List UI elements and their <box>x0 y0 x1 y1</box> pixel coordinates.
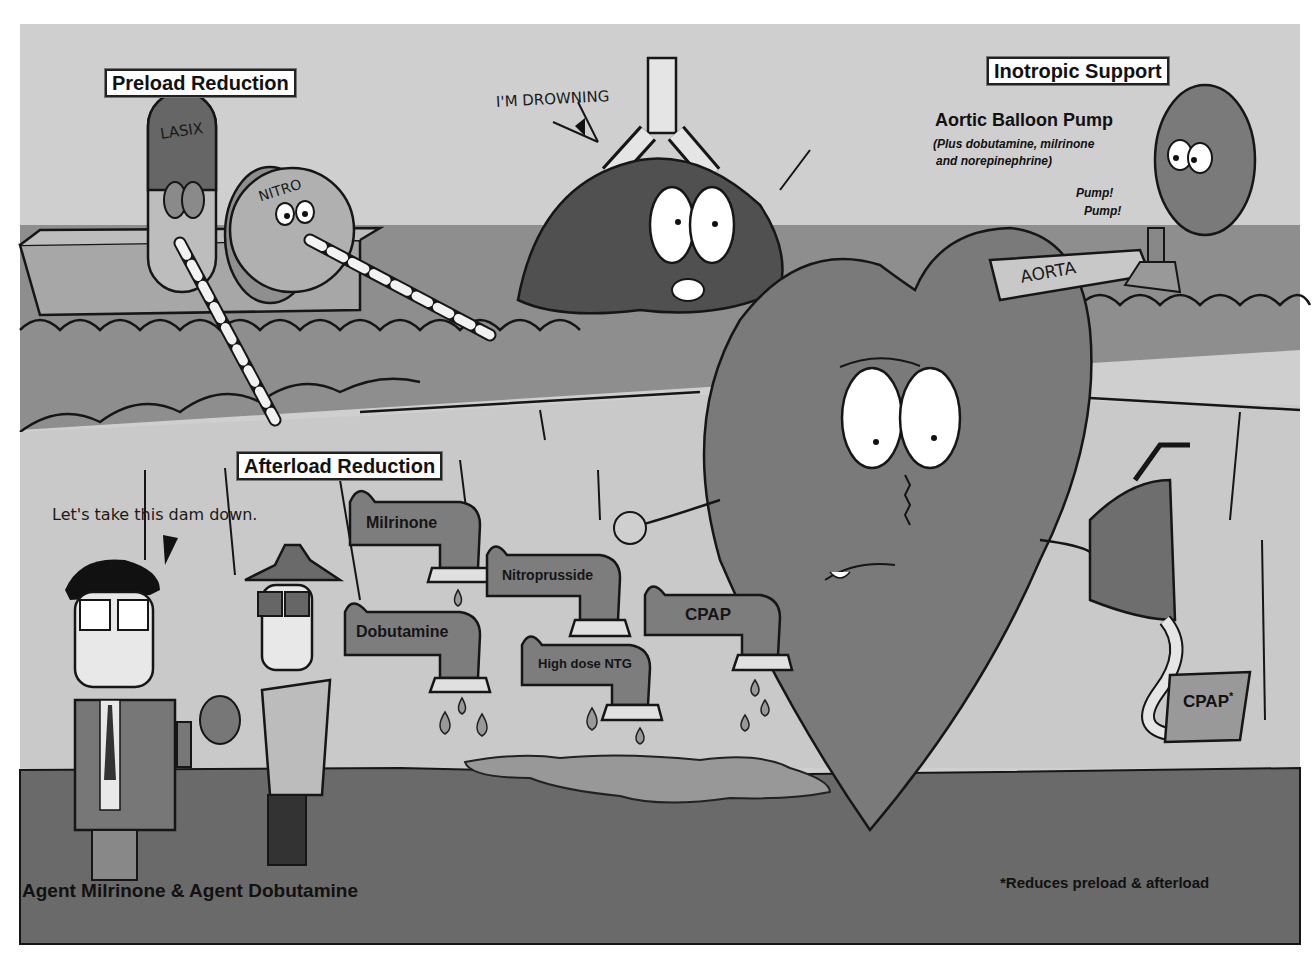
agents-caption: Agent Milrinone & Agent Dobutamine <box>22 880 358 902</box>
inotropic-support-label: Inotropic Support <box>987 57 1169 85</box>
faucet-label-dobutamine: Dobutamine <box>356 623 448 641</box>
pump-exclaim-1: Pump! <box>1076 186 1113 200</box>
balloon-pump-subtitle-1: (Plus dobutamine, milrinone <box>933 137 1094 151</box>
cpap-box-label: CPAP* <box>1183 690 1233 712</box>
agent-speech: Let's take this dam down. <box>52 505 257 524</box>
footnote-caption: *Reduces preload & afterload <box>1000 874 1209 891</box>
cpap-box-asterisk: * <box>1229 690 1233 702</box>
afterload-reduction-label: Afterload Reduction <box>237 452 442 480</box>
faucet-label-milrinone: Milrinone <box>366 514 437 532</box>
preload-reduction-label: Preload Reduction <box>105 69 296 97</box>
faucet-label-high-dose-ntg: High dose NTG <box>538 656 632 671</box>
pump-exclaim-2: Pump! <box>1084 204 1121 218</box>
faucet-label-cpap: CPAP <box>685 605 731 625</box>
faucet-label-nitroprusside: Nitroprusside <box>502 567 593 583</box>
cartoon-scene <box>0 0 1315 960</box>
cpap-box-text: CPAP <box>1183 692 1229 711</box>
balloon-pump-title: Aortic Balloon Pump <box>935 110 1113 131</box>
balloon-pump-subtitle-2: and norepinephrine) <box>936 154 1052 168</box>
